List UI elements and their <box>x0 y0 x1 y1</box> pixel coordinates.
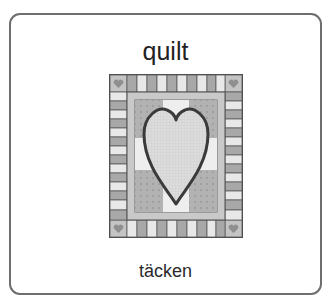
english-word: quilt <box>11 37 320 65</box>
swedish-word: täcken <box>11 260 320 282</box>
vocabulary-card: quilt <box>9 13 322 295</box>
quilt-with-heart-icon <box>109 74 243 238</box>
